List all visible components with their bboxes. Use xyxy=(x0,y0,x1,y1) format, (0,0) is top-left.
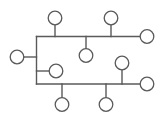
node-top-left xyxy=(48,11,62,25)
node-inner-left xyxy=(49,64,63,78)
node-right-bottom xyxy=(140,77,154,91)
node-right-top xyxy=(140,30,154,44)
node-right-mid xyxy=(115,56,129,70)
network-diagram xyxy=(0,0,165,118)
node-bottom-right xyxy=(99,98,113,112)
node-bottom-left xyxy=(55,98,69,112)
diagram-nodes xyxy=(10,11,154,111)
node-left xyxy=(10,50,24,64)
node-middle xyxy=(79,49,93,63)
node-top-right xyxy=(104,11,118,25)
